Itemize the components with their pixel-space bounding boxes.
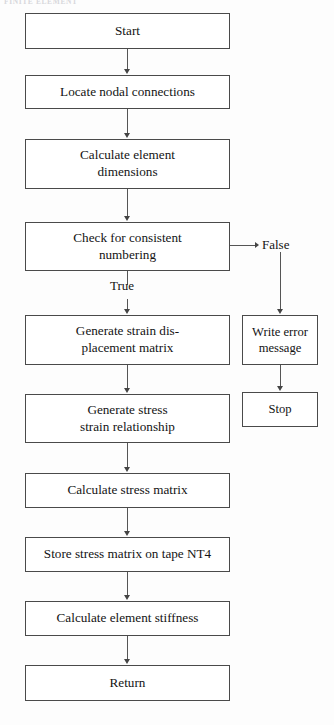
node-calc-dim-line-2: dimensions bbox=[80, 164, 175, 181]
node-start: Start bbox=[25, 13, 230, 49]
node-strain-disp-line-1: Generate strain dis- bbox=[76, 323, 179, 340]
edge-calcstress-to-storestress-arrow-icon bbox=[124, 531, 130, 536]
edge-locate-to-calcdim-arrow-icon bbox=[124, 133, 130, 138]
edge-calcstress-to-storestress-line bbox=[127, 508, 128, 531]
node-write-error-line-1: Write error bbox=[252, 324, 308, 340]
node-check-num-line-2: numbering bbox=[73, 247, 181, 264]
node-stop: Stop bbox=[242, 392, 318, 427]
node-calculate-element-stiffness-label: Calculate element stiffness bbox=[57, 610, 199, 627]
node-return: Return bbox=[25, 665, 230, 701]
edge-straindisp-to-stressstrain-arrow-icon bbox=[124, 388, 130, 393]
edge-storestress-to-calcstiff-line bbox=[127, 572, 128, 595]
edge-locate-to-calcdim-line bbox=[127, 109, 128, 134]
edge-stressstrain-to-calcstress-line bbox=[127, 443, 128, 467]
node-store-stress-matrix-on-tape: Store stress matrix on tape NT4 bbox=[25, 537, 230, 572]
edge-calcdim-to-checknum-line bbox=[127, 189, 128, 217]
edge-checknum-false-arrow-icon bbox=[255, 242, 259, 248]
node-write-error-message-label: Write error message bbox=[252, 324, 308, 356]
node-check-for-consistent-numbering: Check for consistent numbering bbox=[25, 222, 230, 271]
node-calculate-stress-matrix-label: Calculate stress matrix bbox=[67, 482, 187, 499]
node-generate-stress-strain-relationship: Generate stress strain relationship bbox=[25, 394, 230, 443]
edge-calcdim-to-checknum-arrow-icon bbox=[124, 216, 130, 221]
node-calc-stiff-line-1: Calculate element stiffness bbox=[57, 610, 199, 627]
node-strain-disp-line-2: placement matrix bbox=[76, 340, 179, 357]
node-write-error-line-2: message bbox=[252, 340, 308, 356]
edge-writeerror-to-stop-arrow-icon bbox=[277, 386, 283, 391]
node-write-error-message: Write error message bbox=[242, 315, 318, 365]
node-calculate-element-stiffness: Calculate element stiffness bbox=[25, 601, 230, 636]
edge-writeerror-to-stop-line bbox=[280, 365, 281, 386]
edge-label-true: True bbox=[110, 278, 134, 294]
node-start-label: Start bbox=[115, 23, 140, 40]
node-locate-nodal-connections-label: Locate nodal connections bbox=[60, 84, 195, 101]
flowchart-diagram: FINITE ELEMENT Start Locate nodal connec… bbox=[0, 0, 334, 725]
node-store-stress-matrix-label: Store stress matrix on tape NT4 bbox=[44, 546, 211, 563]
edge-checknum-false-hline bbox=[230, 245, 256, 246]
node-stop-label: Stop bbox=[268, 401, 291, 417]
node-calc-dim-line-1: Calculate element bbox=[80, 147, 175, 164]
node-stress-strain-label: Generate stress strain relationship bbox=[80, 402, 175, 436]
edge-false-to-writeerror-arrow-icon bbox=[277, 309, 283, 314]
node-generate-strain-displacement-matrix: Generate strain dis- placement matrix bbox=[25, 315, 230, 365]
edge-label-false: False bbox=[262, 237, 289, 253]
node-stress-strain-line-1: Generate stress bbox=[80, 402, 175, 419]
node-stress-strain-line-2: strain relationship bbox=[80, 419, 175, 436]
edge-false-to-writeerror-vline bbox=[280, 252, 281, 309]
edge-storestress-to-calcstiff-arrow-icon bbox=[124, 595, 130, 600]
edge-stressstrain-to-calcstress-arrow-icon bbox=[124, 467, 130, 472]
node-check-numbering-label: Check for consistent numbering bbox=[73, 230, 181, 264]
node-check-num-line-1: Check for consistent bbox=[73, 230, 181, 247]
page-running-header: FINITE ELEMENT bbox=[4, 0, 78, 6]
node-store-stress-line-1: Store stress matrix on tape NT4 bbox=[44, 546, 211, 563]
edge-calcstiff-to-return-line bbox=[127, 636, 128, 659]
edge-calcstiff-to-return-arrow-icon bbox=[124, 659, 130, 664]
edge-start-to-locate-arrow-icon bbox=[124, 69, 130, 74]
node-calc-stress-line-1: Calculate stress matrix bbox=[67, 482, 187, 499]
node-stop-line-1: Stop bbox=[268, 401, 291, 417]
node-calculate-stress-matrix: Calculate stress matrix bbox=[25, 473, 230, 508]
node-calculate-element-dimensions-label: Calculate element dimensions bbox=[80, 147, 175, 181]
edge-checknum-to-straindisp-arrow-icon bbox=[124, 309, 130, 314]
node-return-label: Return bbox=[110, 675, 146, 692]
node-locate-line-1: Locate nodal connections bbox=[60, 84, 195, 101]
edge-start-to-locate-line bbox=[127, 49, 128, 70]
node-calculate-element-dimensions: Calculate element dimensions bbox=[25, 139, 230, 189]
edge-straindisp-to-stressstrain-line bbox=[127, 365, 128, 388]
node-locate-nodal-connections: Locate nodal connections bbox=[25, 75, 230, 109]
node-strain-displacement-label: Generate strain dis- placement matrix bbox=[76, 323, 179, 357]
node-start-line-1: Start bbox=[115, 23, 140, 40]
node-return-line-1: Return bbox=[110, 675, 146, 692]
